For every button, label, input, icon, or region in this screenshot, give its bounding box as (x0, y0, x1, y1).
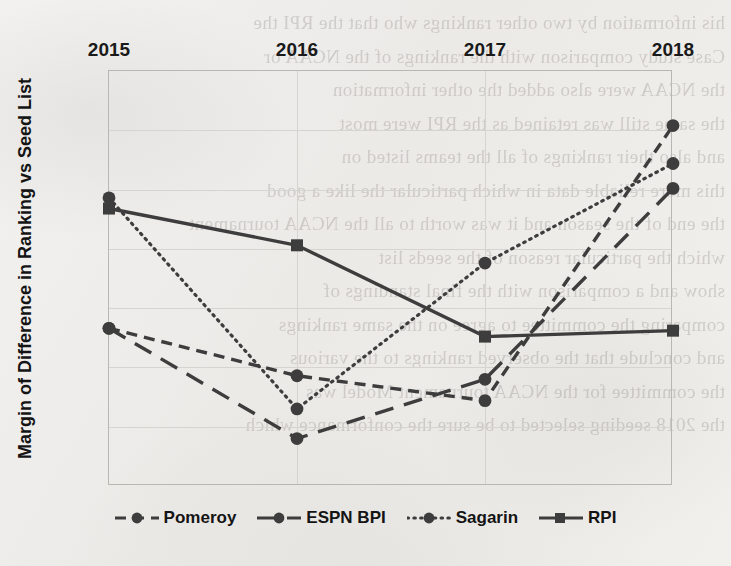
series-rpi (103, 203, 679, 343)
series-line (109, 209, 673, 337)
legend-marker-square-icon (555, 513, 565, 523)
data-point-square (103, 203, 115, 215)
y-axis-title: Margin of Difference in Ranking vs Seed … (15, 34, 36, 504)
data-point-circle (291, 403, 304, 416)
legend-swatch-dashed-short-icon (115, 511, 159, 525)
data-point-circle (103, 191, 116, 204)
legend-label: ESPN BPI (306, 508, 385, 528)
legend-marker-circle-icon (131, 513, 142, 524)
chart-legend: PomeroyESPN BPISagarinRPI (0, 508, 731, 528)
legend-entry-espn-bpi[interactable]: ESPN BPI (257, 508, 385, 528)
plot-area: 33.544.555.566.5 2015201620172018 (108, 70, 672, 485)
legend-entry-sagarin[interactable]: Sagarin (407, 508, 518, 528)
legend-marker-circle-icon (423, 513, 434, 524)
legend-swatch-dotted-icon (407, 511, 451, 525)
series-espn-bpi (103, 182, 680, 445)
x-tick-label-2015: 2015 (88, 39, 130, 61)
legend-entry-pomeroy[interactable]: Pomeroy (115, 508, 237, 528)
legend-label: RPI (588, 508, 616, 528)
data-point-square (479, 331, 491, 343)
line-chart-figure: Margin of Difference in Ranking vs Seed … (0, 0, 731, 566)
series-pomeroy (103, 119, 680, 407)
series-line (109, 126, 673, 401)
data-point-circle (103, 322, 116, 335)
legend-entry-rpi[interactable]: RPI (539, 508, 616, 528)
x-tick-label-2017: 2017 (464, 39, 506, 61)
data-point-circle (667, 157, 680, 170)
x-tick-label-2018: 2018 (652, 39, 694, 61)
legend-marker-circle-icon (274, 513, 285, 524)
legend-label: Sagarin (456, 508, 518, 528)
series-line (109, 163, 673, 408)
data-point-circle (291, 369, 304, 382)
data-point-circle (479, 257, 492, 270)
x-tick-label-2016: 2016 (276, 39, 318, 61)
data-point-circle (667, 182, 680, 195)
data-point-circle (479, 394, 492, 407)
data-point-square (291, 239, 303, 251)
legend-swatch-solid-icon (539, 511, 583, 525)
legend-swatch-dashed-long-icon (257, 511, 301, 525)
data-point-circle (479, 373, 492, 386)
data-point-circle (667, 119, 680, 132)
series-layer (109, 71, 673, 486)
data-point-circle (291, 432, 304, 445)
data-point-square (667, 325, 679, 337)
legend-label: Pomeroy (164, 508, 237, 528)
